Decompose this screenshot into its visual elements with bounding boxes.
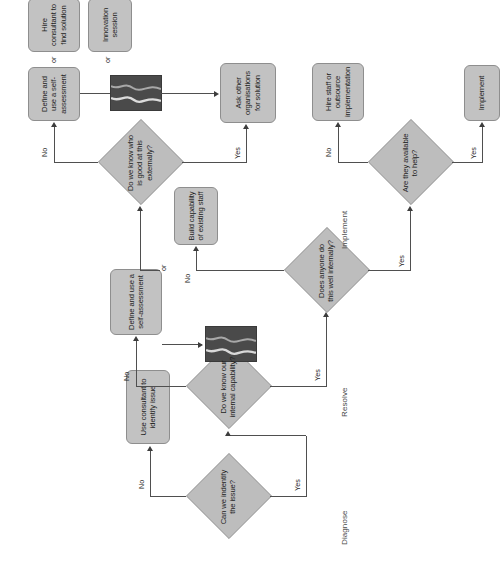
process-define-use-self-assessment-external[interactable]: Define and use a self-assessment: [28, 67, 80, 121]
redacted-block-2: [110, 75, 162, 111]
edge-or-1-riser: [140, 270, 160, 271]
edge-d5-no-vertical: [338, 162, 368, 163]
process-label: Define and use a self-assessment: [40, 71, 68, 117]
decision-label: Can we indentify the issue?: [219, 466, 238, 528]
decision-label: Do we know our internal capability?: [219, 356, 238, 418]
edge-d2-no-vertical: [136, 386, 186, 387]
edge-d3-no-horizontal: [196, 251, 197, 271]
edge-d4-yes-horizontal: [246, 129, 247, 163]
decision-label: Does anyone do this well internally?: [317, 240, 336, 302]
arrowhead-d3-no: [193, 246, 199, 251]
arrowhead-d3-into-d5: [407, 206, 413, 211]
phase-label-resolve: Resolve: [340, 387, 349, 417]
decision-do-we-know-who-is-good-externally[interactable]: Do we know who is good at this externall…: [98, 121, 182, 205]
connector-label-or-1: or: [160, 265, 168, 271]
process-ask-other-organisations-for-solution[interactable]: Ask other organisations for solution: [220, 63, 276, 123]
edge-label-d2-yes: Yes: [314, 369, 322, 381]
edge-redaction-2-to-p4: [160, 93, 216, 94]
edge-d1-no-horizontal: [150, 451, 151, 497]
scribble-icon: [111, 76, 161, 110]
process-implement[interactable]: Implement: [464, 65, 500, 121]
process-label: Hire consultant to find solution: [40, 2, 68, 48]
process-label: Use consultant to identify issue: [139, 374, 158, 440]
edge-d1-yes-horizontal: [306, 436, 307, 497]
process-label: Ask other organisations for solution: [234, 67, 262, 119]
process-innovation-session[interactable]: Innovation session: [88, 0, 132, 52]
edge-d5-yes-horizontal: [482, 127, 483, 163]
phase-label-implement: Implement: [340, 211, 349, 249]
arrowhead-d1-no: [147, 446, 153, 451]
edge-label-d1-yes: Yes: [294, 479, 302, 491]
edge-p5-to-redaction: [80, 93, 110, 94]
process-label: Innovation session: [101, 2, 120, 48]
process-define-use-self-assessment-internal[interactable]: Define and use a self-assessment: [110, 269, 162, 335]
process-label: Define and use a self-assessment: [127, 273, 146, 331]
edge-label-d3-no: No: [184, 274, 192, 283]
edge-label-d5-yes: Yes: [470, 147, 478, 159]
process-hire-consultant-find-solution[interactable]: Hire consultant to find solution: [28, 0, 80, 52]
decision-label: Do we know who is good at this externall…: [126, 132, 154, 194]
arrowhead-into-p4: [214, 91, 219, 97]
edge-label-d1-no: No: [138, 480, 146, 489]
edge-d2-yes-vertical: [270, 386, 326, 387]
arrowhead-d1-into-d2: [225, 431, 231, 436]
edge-d1-yes-riser: [228, 435, 306, 436]
edge-label-d5-no: No: [325, 148, 333, 157]
decision-are-they-available-to-help[interactable]: Are they available to help?: [368, 121, 452, 205]
edge-or-1-to-d4: [140, 211, 141, 271]
decision-does-anyone-do-this-well-internally[interactable]: Does anyone do this well internally?: [284, 229, 368, 313]
edge-d3-no-vertical: [196, 270, 284, 271]
edge-d5-no-horizontal: [338, 127, 339, 163]
process-label: Build capability of existing staff: [187, 191, 206, 241]
edge-d5-yes-vertical: [452, 162, 482, 163]
edge-label-d4-yes: Yes: [234, 147, 242, 159]
decision-label: Are they available to help?: [401, 132, 420, 194]
edge-d3-yes-horizontal: [410, 211, 411, 271]
edge-d2-no-horizontal: [136, 341, 137, 387]
process-label: Implement: [477, 76, 486, 111]
edge-d1-no-vertical: [150, 496, 186, 497]
decision-can-we-identify-issue[interactable]: Can we indentify the issue?: [186, 455, 270, 539]
connector-label-or-3: or: [104, 57, 112, 63]
process-hire-staff-or-outsource-implementation[interactable]: Hire staff or outsource implementation: [312, 63, 364, 121]
edge-label-d3-yes: Yes: [398, 255, 406, 267]
arrowhead-into-d4: [137, 206, 143, 211]
arrowhead-d5-yes: [479, 122, 485, 127]
edge-d3-yes-vertical: [368, 270, 410, 271]
edge-d2-yes-horizontal: [326, 317, 327, 387]
edge-d1-yes-vertical: [270, 496, 306, 497]
arrowhead-d4-no: [51, 122, 57, 127]
arrowhead-d5-no: [335, 122, 341, 127]
process-label: Hire staff or outsource implementation: [324, 67, 352, 117]
edge-d4-yes-vertical: [182, 162, 246, 163]
edge-d4-no-horizontal: [54, 127, 55, 163]
arrowhead-d2-no: [133, 336, 139, 341]
phase-label-diagnose: Diagnose: [340, 510, 349, 545]
edge-d4-no-vertical: [54, 162, 98, 163]
edge-label-d2-no: No: [123, 372, 131, 381]
edge-label-d4-no: No: [41, 148, 49, 157]
process-use-consultant-identify-issue[interactable]: Use consultant to identify issue: [126, 370, 170, 444]
arrowhead-d4-yes: [243, 124, 249, 129]
connector-label-or-2: or: [50, 57, 58, 63]
arrowhead-into-redaction-1: [198, 342, 203, 348]
edge-p2-to-redaction: [162, 344, 202, 345]
decision-do-we-know-internal-capability[interactable]: Do we know our internal capability?: [186, 345, 270, 429]
